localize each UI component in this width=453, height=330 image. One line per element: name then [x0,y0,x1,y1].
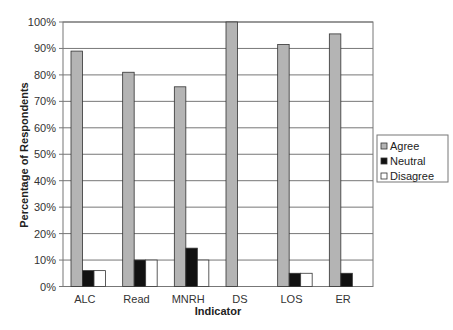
y-tick-label: 100% [28,16,56,28]
bar-agree-er [329,34,341,287]
y-tick-label: 80% [34,69,56,81]
bar-disagree-read [146,260,158,286]
bar-neutral-los [289,273,301,286]
legend-label-neutral: Neutral [390,155,425,167]
bar-agree-read [123,72,134,286]
bar-agree-ds [226,22,238,287]
bar-neutral-mnrh [186,248,198,286]
bar-disagree-alc [94,271,106,287]
y-tick-label: 0% [40,281,56,293]
y-tick-label: 70% [34,95,56,107]
x-tick-label: ER [336,293,351,305]
x-axis-title: Indicator [195,305,242,317]
bar-chart: 0%10%20%30%40%50%60%70%80%90%100% ALCRea… [0,0,453,330]
y-tick-label: 50% [34,148,56,160]
x-tick-label: Read [123,293,149,305]
x-tick-label: ALC [74,293,95,305]
y-tick-label: 30% [34,201,56,213]
y-tick-label: 40% [34,175,56,187]
y-tick-label: 20% [34,228,56,240]
y-axis-title: Percentage of Respondents [18,82,30,227]
legend-label-disagree: Disagree [390,170,434,182]
legend-swatch-agree [381,143,387,149]
bar-disagree-mnrh [197,260,209,286]
bar-disagree-los [301,273,313,286]
legend-label-agree: Agree [390,140,419,152]
y-axis-ticks: 0%10%20%30%40%50%60%70%80%90%100% [28,16,56,293]
legend-swatch-neutral [381,158,387,164]
y-tick-label: 10% [34,254,56,266]
y-tick-label: 60% [34,122,56,134]
bar-neutral-alc [83,271,95,287]
bar-neutral-er [341,273,353,286]
y-tick-label: 90% [34,42,56,54]
x-tick-label: DS [232,293,247,305]
legend: AgreeNeutralDisagree [377,135,448,182]
bar-agree-alc [71,51,83,286]
bar-agree-mnrh [174,87,186,287]
legend-swatch-disagree [381,173,387,179]
x-axis-ticks: ALCReadMNRHDSLOSER [74,293,351,305]
x-tick-label: LOS [280,293,302,305]
gridlines [59,22,373,287]
x-tick-label: MNRH [172,293,205,305]
bar-agree-los [278,44,290,286]
bar-neutral-read [134,260,146,286]
